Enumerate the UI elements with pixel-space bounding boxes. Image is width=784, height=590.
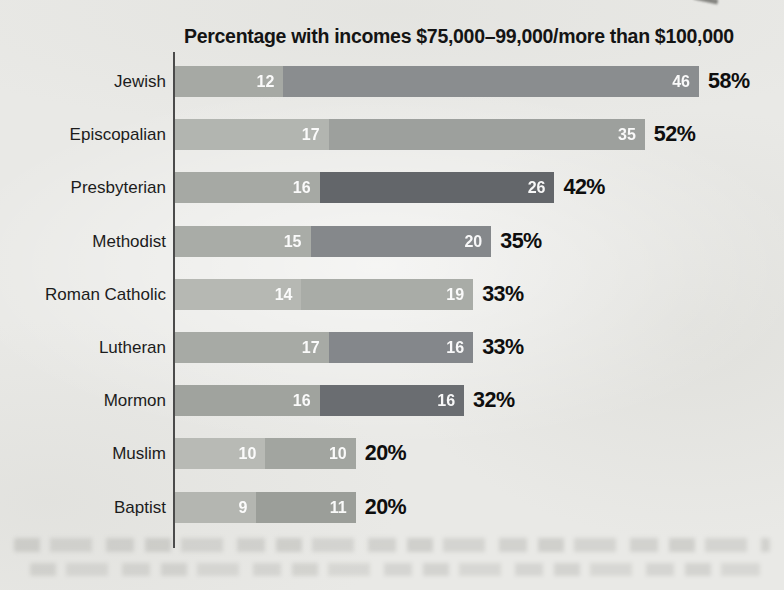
category-label: Methodist (0, 226, 166, 257)
segment-value-label: 26 (528, 172, 546, 203)
chart-title: Percentage with incomes $75,000–99,000/m… (184, 25, 734, 48)
total-label: 20% (365, 491, 407, 522)
segment-value-label: 12 (257, 66, 275, 97)
category-label: Presbyterian (0, 172, 166, 203)
segment-value-label: 19 (446, 279, 464, 310)
category-label: Baptist (0, 492, 166, 523)
category-label: Roman Catholic (0, 279, 166, 310)
bar-segment-1: 15 (175, 226, 311, 257)
bar-segment-1: 9 (175, 492, 256, 523)
scanned-book-page: Percentage with incomes $75,000–99,000/m… (0, 0, 784, 590)
category-label: Mormon (0, 385, 166, 416)
segment-value-label: 35 (618, 119, 636, 150)
segment-value-label: 16 (446, 332, 464, 363)
bar-segment-2: 19 (301, 279, 473, 310)
segment-value-label: 15 (284, 226, 302, 257)
segment-value-label: 14 (275, 279, 293, 310)
bar-segment-2: 16 (320, 385, 465, 416)
category-label: Muslim (0, 438, 166, 469)
blurred-page-text (14, 538, 770, 552)
segment-value-label: 17 (302, 119, 320, 150)
bar-segment-2: 26 (320, 172, 555, 203)
bar-segment-2: 16 (329, 332, 474, 363)
total-label: 52% (654, 118, 696, 149)
segment-value-label: 17 (302, 332, 320, 363)
total-label: 32% (473, 384, 515, 415)
segment-value-label: 10 (239, 438, 257, 469)
segment-value-label: 16 (293, 385, 311, 416)
segment-value-label: 9 (238, 492, 247, 523)
bar-segment-1: 17 (175, 332, 329, 363)
category-label: Episcopalian (0, 119, 166, 150)
segment-value-label: 10 (329, 438, 347, 469)
bar-segment-2: 46 (283, 66, 699, 97)
bar-segment-1: 12 (175, 66, 283, 97)
segment-value-label: 16 (437, 385, 455, 416)
bar-segment-2: 11 (256, 492, 355, 523)
segment-value-label: 11 (330, 492, 347, 523)
segment-value-label: 46 (672, 66, 690, 97)
bar-segment-2: 10 (265, 438, 355, 469)
category-label: Lutheran (0, 332, 166, 363)
bar-segment-1: 16 (175, 385, 320, 416)
bar-segment-1: 17 (175, 119, 329, 150)
bar-segment-1: 16 (175, 172, 320, 203)
blurred-page-text (30, 563, 760, 576)
total-label: 35% (500, 225, 542, 256)
bar-segment-1: 14 (175, 279, 301, 310)
category-label: Jewish (0, 66, 166, 97)
bar-segment-1: 10 (175, 438, 265, 469)
total-label: 20% (365, 437, 407, 468)
total-label: 33% (482, 278, 524, 309)
total-label: 33% (482, 331, 524, 362)
page-scan-artifact (694, 0, 719, 4)
segment-value-label: 20 (464, 226, 482, 257)
bar-segment-2: 20 (311, 226, 492, 257)
total-label: 42% (563, 171, 605, 202)
total-label: 58% (708, 65, 750, 96)
segment-value-label: 16 (293, 172, 311, 203)
bar-segment-2: 35 (329, 119, 645, 150)
